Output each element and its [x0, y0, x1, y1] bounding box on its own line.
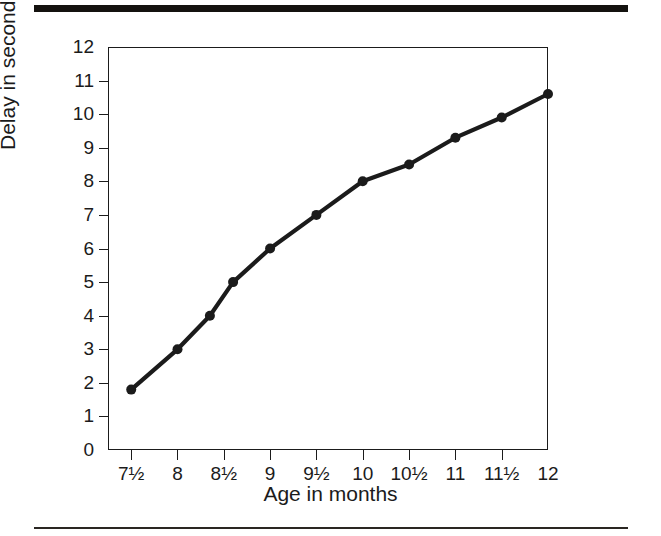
- figure-container: 0123456789101112 7½88½99½1010½1111½12 De…: [0, 0, 661, 536]
- data-series-line: [0, 0, 661, 536]
- data-point-marker: [543, 89, 553, 99]
- data-point-marker: [265, 244, 275, 254]
- data-point-marker: [450, 133, 460, 143]
- data-point-marker: [173, 344, 183, 354]
- bottom-rule-divider: [34, 527, 628, 529]
- data-point-marker: [228, 277, 238, 287]
- data-point-marker: [497, 113, 507, 123]
- data-point-marker: [358, 176, 368, 186]
- data-point-marker: [205, 311, 215, 321]
- x-axis-title: Age in months: [0, 482, 661, 506]
- data-point-marker: [311, 210, 321, 220]
- series-polyline: [131, 94, 548, 390]
- data-point-marker: [126, 385, 136, 395]
- chart-axes-layer: 0123456789101112 7½88½99½1010½1111½12 De…: [0, 0, 661, 536]
- data-point-marker: [404, 160, 414, 170]
